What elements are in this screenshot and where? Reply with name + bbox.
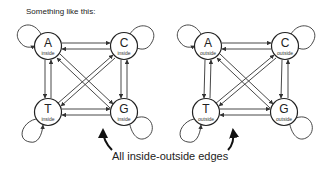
node-letter: A — [44, 36, 52, 50]
node-t-inside: T inside — [35, 99, 62, 126]
node-letter: G — [119, 102, 128, 116]
node-label: inside — [41, 116, 54, 122]
node-c-inside: C inside — [111, 33, 138, 60]
pointer-arrow-left — [103, 130, 112, 150]
node-a-outside: A outside — [195, 33, 222, 60]
node-g-inside: G inside — [111, 99, 138, 126]
diagram-caption: All inside-outside edges — [112, 150, 228, 162]
node-a-inside: A inside — [35, 33, 62, 60]
node-letter: G — [279, 102, 288, 116]
node-label: outside — [200, 50, 216, 56]
pointer-arrow-right — [228, 130, 233, 150]
node-letter: T — [202, 102, 210, 116]
node-label: outside — [198, 116, 214, 122]
node-label: outside — [276, 116, 292, 122]
node-letter: C — [120, 36, 129, 50]
node-t-outside: T outside — [193, 99, 220, 126]
node-letter: C — [281, 36, 290, 50]
node-letter: T — [44, 102, 52, 116]
node-label: inside — [41, 50, 54, 56]
node-label: inside — [117, 116, 130, 122]
node-label: inside — [117, 50, 130, 56]
graph-outside: A outside C outside T outside G outside — [177, 25, 315, 142]
node-g-outside: G outside — [271, 99, 298, 126]
graph-inside: A inside C inside T inside G inside — [17, 25, 154, 142]
node-letter: A — [204, 36, 212, 50]
node-c-outside: C outside — [272, 33, 299, 60]
node-label: outside — [277, 50, 293, 56]
